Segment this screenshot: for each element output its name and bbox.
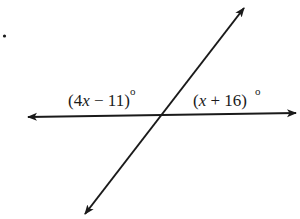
transversal-line bbox=[85, 8, 244, 214]
angle-label-left: (4x − 11) o bbox=[68, 85, 136, 110]
bullet-dot bbox=[3, 34, 6, 37]
angle-label-right-rest: + 16) bbox=[206, 91, 247, 110]
angle-label-right: (x + 16) o bbox=[193, 85, 261, 110]
svg-text:(x + 16): (x + 16) bbox=[193, 91, 247, 110]
angle-label-left-open: (4 bbox=[68, 91, 83, 110]
svg-text:(4x − 11): (4x − 11) bbox=[68, 91, 130, 110]
degree-symbol-right: o bbox=[255, 85, 261, 97]
degree-symbol-left: o bbox=[130, 85, 136, 97]
intersecting-lines-diagram: (4x − 11) o (x + 16) o bbox=[0, 0, 300, 219]
angle-label-left-rest: − 11) bbox=[90, 91, 130, 110]
